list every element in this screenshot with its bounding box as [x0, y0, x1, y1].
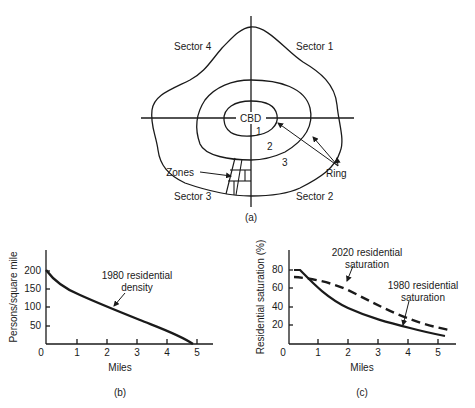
c-xtick-3: 3 — [375, 347, 381, 358]
caption-a: (a) — [245, 212, 257, 223]
ring-2-label: 2 — [267, 141, 273, 152]
b-xlabel: Miles — [108, 362, 131, 373]
b-ytick-50: 50 — [30, 320, 42, 331]
b-xtick-2: 2 — [104, 347, 110, 358]
b-xtick-0: 0 — [38, 347, 44, 358]
b-annotation-line2: density — [121, 282, 153, 293]
c-annotation-2020-line2: saturation — [345, 259, 389, 270]
sector-3-label: Sector 3 — [174, 191, 212, 202]
cbd-label: CBD — [240, 113, 261, 124]
b-ytick-150: 150 — [24, 283, 41, 294]
ring-1-label: 1 — [256, 126, 262, 137]
c-xtick-4: 4 — [405, 347, 411, 358]
b-ylabel: Persons/square mile — [8, 251, 19, 343]
c-ytick-40: 40 — [272, 301, 284, 312]
b-xtick-5: 5 — [194, 347, 200, 358]
b-ytick-100: 100 — [24, 301, 41, 312]
figure: Sector 4 Sector 1 Sector 3 Sector 2 CBD … — [0, 0, 475, 408]
c-xtick-1: 1 — [315, 347, 321, 358]
zones-grid — [226, 158, 251, 195]
series-1980-density — [46, 270, 193, 344]
ring-label: Ring — [326, 168, 347, 179]
c-xtick-5: 5 — [435, 347, 441, 358]
sector-4-label: Sector 4 — [174, 41, 212, 52]
caption-c: (c) — [356, 387, 368, 398]
ring-3-label: 3 — [282, 157, 288, 168]
sector-2-label: Sector 2 — [296, 191, 334, 202]
chart-c: 80 60 40 20 0 1 2 3 4 5 Miles (c) Reside… — [255, 240, 458, 398]
b-ytick-200: 200 — [24, 265, 41, 276]
c-xtick-2: 2 — [345, 347, 351, 358]
b-xtick-3: 3 — [134, 347, 140, 358]
zones-label: Zones — [166, 167, 194, 178]
b-xtick-1: 1 — [74, 347, 80, 358]
c-ylabel: Residential saturation (%) — [255, 240, 266, 355]
c-annotation-1980-line2: saturation — [401, 292, 445, 303]
figure-canvas: Sector 4 Sector 1 Sector 3 Sector 2 CBD … — [0, 0, 475, 408]
chart-b: 200 150 100 50 0 1 2 3 4 5 Miles (b) Per… — [8, 250, 213, 398]
b-xtick-4: 4 — [164, 347, 170, 358]
b-annotation-line1: 1980 residential — [102, 270, 173, 281]
c-ytick-60: 60 — [272, 282, 284, 293]
sector-1-label: Sector 1 — [296, 41, 334, 52]
c-annotation-2020-line1: 2020 residential — [332, 247, 403, 258]
c-ytick-20: 20 — [272, 319, 284, 330]
caption-b: (b) — [114, 387, 126, 398]
c-xlabel: Miles — [350, 362, 373, 373]
c-ytick-80: 80 — [272, 264, 284, 275]
c-annotation-1980-line1: 1980 residential — [388, 280, 459, 291]
c-xtick-0: 0 — [280, 347, 286, 358]
